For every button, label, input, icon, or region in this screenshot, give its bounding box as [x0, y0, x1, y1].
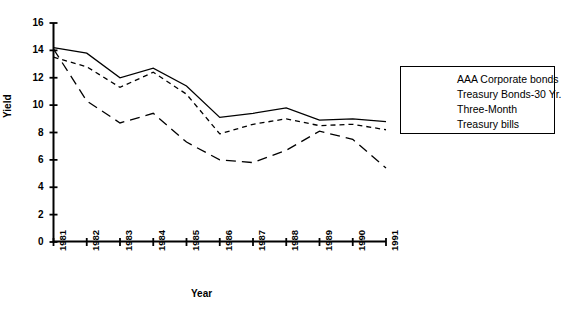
legend-label-2-line2: Treasury bills [457, 118, 519, 130]
axis-lines [53, 23, 386, 242]
yield-line-chart: 0246810121416 19811982198319841985198619… [0, 0, 561, 310]
y-tick-label: 14 [18, 45, 44, 55]
y-tick-label: 0 [18, 237, 44, 247]
x-tick-label: 1988 [290, 230, 300, 251]
x-tick-label: 1989 [324, 230, 334, 251]
legend-item-three-month-treasury-bills-cont: Treasury bills [401, 117, 554, 132]
legend-swatch-long-dash [409, 109, 449, 110]
x-tick-label: 1986 [224, 230, 234, 251]
y-tick-label: 8 [18, 128, 44, 138]
y-tick-label: 6 [18, 155, 44, 165]
y-tick-label: 4 [18, 182, 44, 192]
x-tick-label: 1985 [191, 230, 201, 251]
x-tick-label: 1981 [58, 230, 68, 251]
legend-item-treasury-bonds-30yr: Treasury Bonds-30 Yr. [401, 87, 554, 102]
plot-area [0, 0, 561, 310]
data-series [54, 48, 387, 168]
series-line-1 [54, 57, 387, 134]
legend-label-0: AAA Corporate bonds [457, 73, 559, 85]
y-axis-title: Yield [2, 94, 13, 118]
legend-label-2: Three-Month [457, 103, 517, 115]
x-tick-label: 1991 [390, 230, 400, 251]
series-line-0 [54, 48, 387, 122]
legend-swatch-solid [409, 79, 449, 80]
y-tick-label: 12 [18, 73, 44, 83]
legend-item-aaa-corporate-bonds: AAA Corporate bonds [401, 72, 554, 87]
x-tick-label: 1982 [91, 230, 101, 251]
legend-swatch-short-dash [409, 94, 449, 95]
legend-label-1: Treasury Bonds-30 Yr. [457, 88, 561, 100]
x-tick-label: 1983 [124, 230, 134, 251]
y-tick-label: 10 [18, 100, 44, 110]
x-tick-label: 1990 [357, 230, 367, 251]
chart-legend: AAA Corporate bonds Treasury Bonds-30 Yr… [400, 66, 555, 134]
y-tick-label: 16 [18, 18, 44, 28]
x-tick-label: 1984 [157, 230, 167, 251]
x-axis-title: Year [191, 288, 212, 299]
x-tick-label: 1987 [257, 230, 267, 251]
legend-item-three-month-treasury-bills: Three-Month [401, 102, 554, 117]
series-line-2 [54, 49, 387, 168]
y-tick-label: 2 [18, 210, 44, 220]
